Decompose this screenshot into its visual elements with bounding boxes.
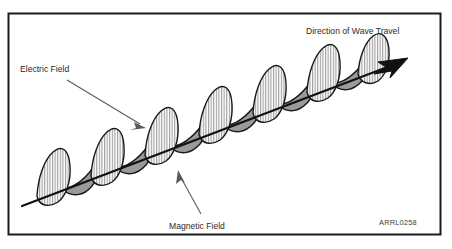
magnetic-field-leader-line [180, 176, 201, 214]
direction-of-travel-label: Direction of Wave Travel [306, 26, 399, 36]
electric-lobe [199, 86, 232, 143]
em-wave-figure: Direction of Wave Travel Electric Field … [0, 0, 452, 249]
figure-canvas: Direction of Wave Travel Electric Field … [0, 0, 452, 249]
magnetic-field-label: Magnetic Field [169, 221, 225, 231]
electric-field-label: Electric Field [20, 64, 69, 74]
electric-field-leader-line [67, 80, 140, 124]
electric-lobe [37, 148, 70, 205]
propagation-axis-line [22, 63, 398, 206]
figure-code-label: ARRL0258 [379, 218, 417, 227]
electric-lobe [253, 65, 286, 122]
magnetic-field-leader-arrow-icon [176, 170, 185, 184]
electric-lobe [307, 44, 340, 101]
electric-lobe [145, 107, 178, 164]
